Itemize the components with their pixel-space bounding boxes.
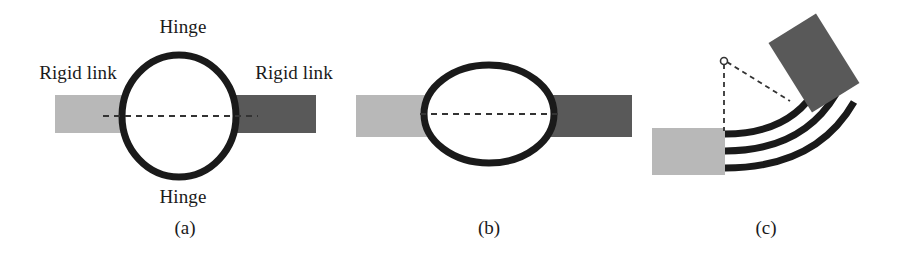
- figure-root: Hinge Hinge Rigid link Rigid link (a) (b…: [0, 0, 897, 257]
- panel-b-caption: (b): [478, 217, 500, 239]
- panel-a-rigid-link-left-label: Rigid link: [39, 62, 117, 83]
- panel-c: (c): [652, 13, 859, 239]
- panel-c-rigid-link-fixed-bar: [652, 128, 725, 175]
- panel-c-rigid-link-rotated-bar: [769, 13, 860, 112]
- panel-c-virtual-pivot-point: [721, 58, 728, 65]
- panel-a-rigid-link-right-label: Rigid link: [255, 62, 333, 83]
- panel-a-hinge-bottom-label: Hinge: [160, 186, 207, 207]
- figure-canvas: Hinge Hinge Rigid link Rigid link (a) (b…: [0, 0, 897, 257]
- panel-a-hinge-top-label: Hinge: [160, 16, 207, 37]
- panel-c-caption: (c): [755, 217, 776, 239]
- panel-c-pivot-diagonal-dashed: [727, 62, 790, 101]
- panel-a: Hinge Hinge Rigid link Rigid link (a): [39, 16, 333, 239]
- panel-a-rigid-link-right-bar: [226, 95, 316, 133]
- panel-b: (b): [356, 65, 632, 239]
- panel-a-caption: (a): [174, 217, 195, 239]
